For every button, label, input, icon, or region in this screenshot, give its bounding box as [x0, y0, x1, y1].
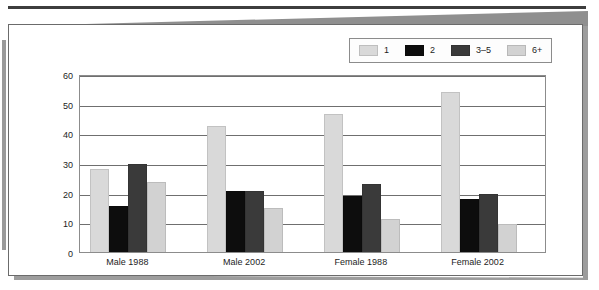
bar	[226, 191, 245, 252]
y-axis-tick-label: 10	[63, 219, 73, 229]
bar	[207, 126, 226, 252]
legend-item: 6+	[507, 45, 542, 56]
bar	[343, 196, 362, 252]
y-axis-tick-label: 30	[63, 160, 73, 170]
legend-item: 2	[405, 45, 435, 56]
bar	[460, 199, 479, 252]
x-axis-tick-labels: Male 1988Male 2002Female 1988Female 2002	[79, 257, 546, 273]
x-axis-tick-label: Female 1988	[335, 257, 388, 267]
y-axis-tick-label: 20	[63, 190, 73, 200]
bar	[264, 208, 283, 253]
bar-group	[324, 76, 400, 252]
bar	[128, 164, 147, 252]
bar-group	[207, 76, 283, 252]
bar	[109, 206, 128, 252]
legend-item: 3–5	[451, 45, 491, 56]
legend-swatch	[405, 45, 424, 56]
legend-label: 3–5	[476, 46, 491, 55]
legend-swatch	[359, 45, 378, 56]
page-scan-top-rule	[8, 6, 586, 9]
bar	[90, 169, 109, 252]
bar-group	[441, 76, 517, 252]
legend-swatch	[507, 45, 526, 56]
bar	[498, 224, 517, 252]
bars-layer	[80, 76, 545, 252]
x-axis-tick-label: Male 1988	[106, 257, 148, 267]
bar	[441, 92, 460, 252]
y-axis-tick-label: 60	[63, 71, 73, 81]
plot-area: 0102030405060	[79, 75, 546, 253]
bar	[362, 184, 381, 252]
chart-legend: 123–56+	[349, 38, 552, 63]
y-axis-tick-label: 40	[63, 130, 73, 140]
page-scan-left-edge	[2, 40, 6, 250]
bar	[479, 194, 498, 252]
y-axis-tick-label: 50	[63, 101, 73, 111]
x-axis-tick-label: Male 2002	[223, 257, 265, 267]
legend-label: 1	[384, 46, 389, 55]
legend-swatch	[451, 45, 470, 56]
bar	[147, 182, 166, 252]
page-scan-right-shadow	[583, 26, 588, 278]
x-axis-tick-label: Female 2002	[451, 257, 504, 267]
bar	[245, 191, 264, 252]
bar	[324, 114, 343, 252]
legend-item: 1	[359, 45, 389, 56]
legend-label: 2	[430, 46, 435, 55]
chart-panel: 123–56+ 0102030405060 Male 1988Male 2002…	[8, 24, 583, 276]
legend-label: 6+	[532, 46, 542, 55]
bar-group	[90, 76, 166, 252]
bar	[381, 219, 400, 252]
y-axis-tick-label: 0	[68, 249, 73, 259]
